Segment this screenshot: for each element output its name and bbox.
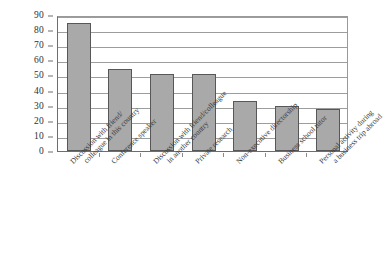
y-tick-label: 40 xyxy=(34,87,44,97)
y-tick-label: 30 xyxy=(34,102,44,112)
y-tick-mark xyxy=(48,31,53,32)
y-tick-label: 90 xyxy=(34,11,44,21)
y-tick-label: 50 xyxy=(34,72,44,82)
y-tick-mark xyxy=(48,106,53,107)
y-tick-mark xyxy=(48,16,53,17)
gridline xyxy=(58,32,347,33)
y-tick-label: 60 xyxy=(34,57,44,67)
y-tick-mark xyxy=(48,61,53,62)
y-tick-mark xyxy=(48,46,53,47)
x-tick-mark xyxy=(99,153,100,157)
y-tick-mark xyxy=(48,121,53,122)
x-axis-category-labels: Discussion with friend/colleague in this… xyxy=(0,152,367,267)
y-tick-mark xyxy=(48,136,53,137)
x-tick-mark xyxy=(265,153,266,157)
y-axis: 0102030405060708090 xyxy=(0,16,53,152)
y-tick-mark xyxy=(48,76,53,77)
y-tick-label: 80 xyxy=(34,26,44,36)
gridline xyxy=(58,47,347,48)
y-tick-label: 10 xyxy=(34,132,44,142)
x-tick-mark xyxy=(140,153,141,157)
x-tick-mark xyxy=(306,153,307,157)
gridline xyxy=(58,17,347,18)
gridline xyxy=(58,62,347,63)
bar xyxy=(67,23,91,151)
y-tick-mark xyxy=(48,91,53,92)
y-tick-label: 20 xyxy=(34,117,44,127)
x-tick-mark xyxy=(182,153,183,157)
x-tick-mark xyxy=(223,153,224,157)
y-tick-label: 70 xyxy=(34,41,44,51)
